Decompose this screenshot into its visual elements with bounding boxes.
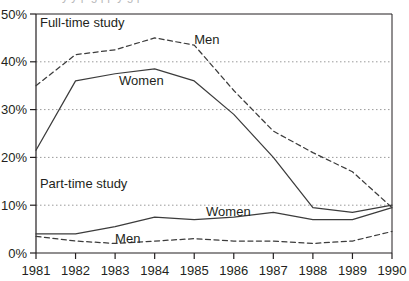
y-tick-label-50: 50%: [1, 7, 27, 22]
annotation-part-time-study-3: Part-time study: [40, 176, 128, 191]
x-tick-label-1984: 1984: [140, 263, 169, 278]
y-tick-label-10: 10%: [1, 198, 27, 213]
y-tick-label-40: 40%: [1, 54, 27, 69]
x-tick-label-1981: 1981: [22, 263, 51, 278]
y-tick-label-30: 30%: [1, 102, 27, 117]
annotation-men-5: Men: [115, 231, 140, 246]
annotation-men-1: Men: [194, 32, 219, 47]
x-tick-label-1990: 1990: [378, 263, 407, 278]
x-tick-label-1988: 1988: [298, 263, 327, 278]
x-tick-label-1982: 1982: [61, 263, 90, 278]
annotation-women-2: Women: [119, 73, 164, 88]
y-tick-label-20: 20%: [1, 150, 27, 165]
cropped-title-remnant: y y p g pp y g p: [0, 0, 409, 7]
cropped-title-text: y y p g pp y g p: [62, 0, 143, 3]
x-tick-label-1986: 1986: [219, 263, 248, 278]
chart-container: y y p g pp y g p 0%10%20%30%40%50%198119…: [0, 0, 409, 281]
annotation-full-time-study-0: Full-time study: [40, 15, 125, 30]
x-tick-label-1983: 1983: [101, 263, 130, 278]
x-tick-label-1985: 1985: [180, 263, 209, 278]
y-tick-label-0: 0%: [8, 246, 27, 261]
x-tick-label-1989: 1989: [338, 263, 367, 278]
line-chart: 0%10%20%30%40%50%19811982198319841985198…: [0, 0, 409, 281]
series-line-full-time-study-women: [36, 69, 392, 212]
annotation-women-4: Women: [206, 204, 251, 219]
series-line-part-time-study-men: [36, 231, 392, 243]
x-tick-label-1987: 1987: [259, 263, 288, 278]
